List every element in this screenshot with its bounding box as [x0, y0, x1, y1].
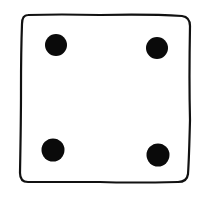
die-face	[0, 0, 201, 206]
pip-4	[147, 144, 170, 167]
pip-2	[146, 37, 168, 59]
pip-3	[42, 139, 65, 162]
pip-1	[45, 34, 67, 56]
pips-group	[42, 34, 170, 167]
